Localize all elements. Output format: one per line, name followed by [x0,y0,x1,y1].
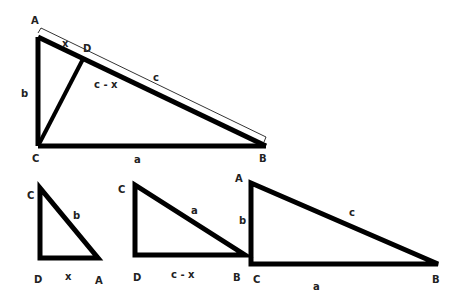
middle-vertex-d: D [133,272,141,283]
middle-vertex-b: B [233,272,241,283]
main-vertex-c: C [32,153,39,164]
small-left-triangle [40,188,98,258]
left-vertex-a: A [95,275,103,286]
right-side-a: a [313,281,320,292]
left-vertex-d: D [34,274,42,285]
middle-side-c-minus-x: c - x [171,269,195,280]
main-side-a: a [134,154,141,165]
right-vertex-c: C [253,274,260,285]
middle-vertex-c: C [118,184,125,195]
middle-side-a: a [191,205,198,216]
right-vertex-b: B [432,274,440,285]
main-side-b: b [21,88,28,99]
c-length-bracket [38,28,266,142]
main-triangle [38,28,266,146]
large-right-triangle [251,183,438,264]
right-vertex-a: A [235,173,243,184]
right-side-b: b [239,215,246,226]
left-vertex-c: C [27,190,34,201]
diagram-canvas: A D C B b a c x c - x C D A b x C D B a … [0,0,460,302]
right-side-c: c [349,207,355,218]
hypotenuse-c-line [38,37,266,146]
main-side-c-minus-x: c - x [94,79,118,90]
main-side-c: c [153,72,159,83]
main-vertex-d: D [83,43,91,54]
main-vertex-b: B [259,153,267,164]
main-side-x: x [62,38,69,49]
left-side-b: b [73,210,80,221]
left-side-x: x [65,271,72,282]
altitude-cd-line [38,59,83,146]
main-vertex-a: A [31,15,39,26]
small-middle-triangle [135,185,245,255]
